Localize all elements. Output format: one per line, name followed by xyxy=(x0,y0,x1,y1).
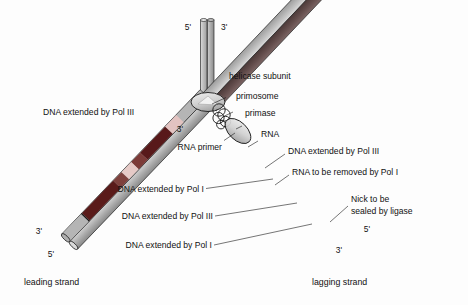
helicase-subunit-shape xyxy=(191,93,225,112)
label-lagging-pol3-right: DNA extended by Pol III xyxy=(288,146,379,156)
label-primase: primase xyxy=(245,108,276,118)
prime-label-lagging-upper: 5' xyxy=(364,224,371,234)
primase-shape xyxy=(221,114,256,148)
label-leading-pol3: DNA extended by Pol III xyxy=(43,107,134,117)
label-lagging-pol1-a: DNA extended by Pol I xyxy=(118,184,204,194)
label-nick-line1: Nick to be xyxy=(351,194,389,204)
prime-label-top-right: 3' xyxy=(221,22,228,32)
label-primosome: primosome xyxy=(236,91,279,101)
label-rna-removed-by-pol1: RNA to be removed by Pol I xyxy=(292,167,398,177)
label-nick-line2: sealed by ligase xyxy=(351,206,413,216)
prime-label-lagging-lower: 3' xyxy=(336,245,343,255)
label-leading-strand: leading strand xyxy=(24,277,79,287)
prime-label-leading-upper: 3' xyxy=(36,226,43,236)
label-lagging-pol1-b: DNA extended by Pol I xyxy=(126,240,212,250)
label-helicase-subunit: helicase subunit xyxy=(229,71,291,81)
prime-label-leading-lower: 5' xyxy=(48,249,55,259)
replication-fork-diagram: 5' 3' 3' 3' 5' 5' 3' helicase subunit pr… xyxy=(0,0,468,305)
label-lagging-pol3-b: DNA extended by Pol III xyxy=(122,211,213,221)
prime-label-top-left: 5' xyxy=(185,22,192,32)
figure-canvas: 5' 3' 3' 3' 5' 5' 3' helicase subunit pr… xyxy=(0,0,468,305)
label-rna: RNA xyxy=(261,129,279,139)
label-rna-primer: RNA primer xyxy=(178,142,223,152)
prime-label-fork-leading: 3' xyxy=(177,124,184,134)
leading-strand-arm xyxy=(199,0,359,111)
label-lagging-strand: lagging strand xyxy=(312,277,367,287)
